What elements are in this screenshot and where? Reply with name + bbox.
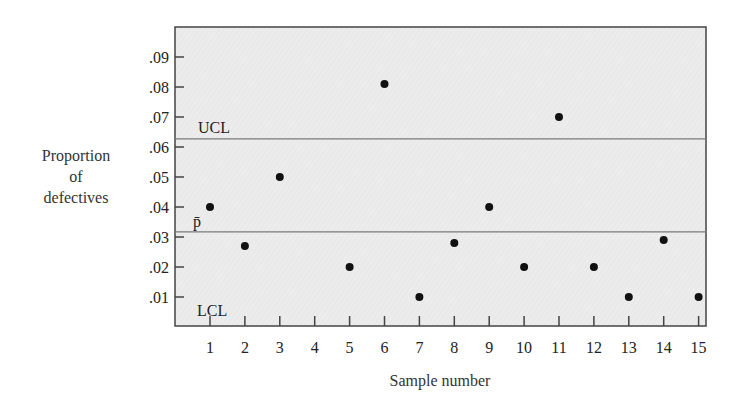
data-point — [555, 113, 563, 121]
y-tick-label: .08 — [149, 79, 169, 96]
x-tick-label: 4 — [311, 339, 319, 356]
x-tick-label: 1 — [206, 339, 214, 356]
x-tick-label: 6 — [381, 339, 389, 356]
x-axis-title: Sample number — [390, 372, 492, 390]
p-bar-label: p̄ — [193, 213, 201, 231]
x-tick-label: 7 — [415, 339, 423, 356]
data-point — [241, 242, 249, 250]
data-point — [485, 203, 493, 211]
data-point — [346, 263, 354, 271]
y-tick-label: .09 — [149, 49, 169, 66]
x-tick-label: 10 — [516, 339, 532, 356]
x-tick-label: 14 — [656, 339, 672, 356]
x-tick-label: 5 — [346, 339, 354, 356]
y-tick-label: .04 — [149, 199, 169, 216]
y-axis-title-line: Proportion — [42, 147, 110, 165]
data-point — [381, 80, 389, 88]
y-axis-title-line: defectives — [44, 189, 109, 206]
x-tick-label: 9 — [485, 339, 493, 356]
data-point — [206, 203, 214, 211]
plot-area — [175, 27, 706, 326]
x-tick-label: 11 — [551, 339, 566, 356]
lcl-label: LCL — [197, 302, 227, 319]
y-axis-title-line: of — [69, 168, 83, 185]
y-tick-label: .05 — [149, 169, 169, 186]
x-tick-label: 8 — [450, 339, 458, 356]
y-axis-title: Proportionofdefectives — [42, 147, 110, 206]
x-tick-label: 13 — [621, 339, 637, 356]
data-point — [695, 293, 703, 301]
data-point — [415, 293, 423, 301]
x-tick-label: 15 — [691, 339, 707, 356]
y-tick-label: .07 — [149, 109, 169, 126]
x-tick-label: 3 — [276, 339, 284, 356]
y-tick-label: .06 — [149, 139, 169, 156]
data-point — [590, 263, 598, 271]
data-point — [450, 239, 458, 247]
data-point — [520, 263, 528, 271]
x-tick-label: 2 — [241, 339, 249, 356]
y-tick-label: .01 — [149, 289, 169, 306]
data-point — [625, 293, 633, 301]
data-point — [660, 236, 668, 244]
y-tick-label: .02 — [149, 259, 169, 276]
y-axis: .01.02.03.04.05.06.07.08.09 — [149, 49, 184, 306]
y-tick-label: .03 — [149, 229, 169, 246]
x-tick-label: 12 — [586, 339, 602, 356]
control-chart: .01.02.03.04.05.06.07.08.09 123456789101… — [0, 0, 740, 415]
ucl-label: UCL — [198, 119, 230, 136]
data-point — [276, 173, 284, 181]
